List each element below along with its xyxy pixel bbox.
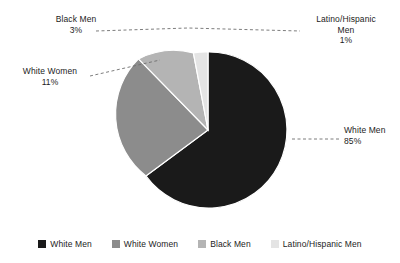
legend-swatch-icon-latino-hispanic-men bbox=[271, 240, 279, 248]
slice-label-latino-line1: Latino/Hispanic bbox=[298, 14, 394, 25]
legend-swatch-icon-white-women bbox=[112, 240, 120, 248]
slice-label-white-women-name: White Women bbox=[6, 66, 94, 77]
legend-item-black-men[interactable]: Black Men bbox=[198, 239, 251, 249]
pie-chart-figure: Black Men 3% White Women 11% Latino/Hisp… bbox=[0, 0, 400, 263]
slice-label-latino-line2: Men bbox=[298, 25, 394, 36]
slice-label-white-women-pct: 11% bbox=[6, 77, 94, 88]
slice-label-white-men-pct: 85% bbox=[344, 136, 398, 147]
slice-label-black-men: Black Men 3% bbox=[38, 14, 114, 35]
slice-label-white-women: White Women 11% bbox=[6, 66, 94, 87]
slice-label-white-men-name: White Men bbox=[344, 125, 398, 136]
slice-label-latino-hispanic-men: Latino/Hispanic Men 1% bbox=[298, 14, 394, 46]
slice-label-white-men: White Men 85% bbox=[344, 125, 398, 146]
legend-item-white-men[interactable]: White Men bbox=[38, 239, 92, 249]
leader-line-black-men bbox=[96, 28, 300, 31]
legend-label-black-men: Black Men bbox=[210, 239, 251, 249]
legend-label-white-women: White Women bbox=[124, 239, 178, 249]
slice-label-black-men-name: Black Men bbox=[38, 14, 114, 25]
chart-legend: White Men White Women Black Men Latino/H… bbox=[0, 239, 400, 249]
legend-label-latino-hispanic-men: Latino/Hispanic Men bbox=[283, 239, 362, 249]
legend-swatch-icon-white-men bbox=[38, 240, 46, 248]
legend-swatch-icon-black-men bbox=[198, 240, 206, 248]
legend-item-white-women[interactable]: White Women bbox=[112, 239, 178, 249]
legend-label-white-men: White Men bbox=[50, 239, 92, 249]
slice-label-black-men-pct: 3% bbox=[38, 25, 114, 36]
legend-item-latino-hispanic-men[interactable]: Latino/Hispanic Men bbox=[271, 239, 362, 249]
slice-label-latino-pct: 1% bbox=[298, 35, 394, 46]
